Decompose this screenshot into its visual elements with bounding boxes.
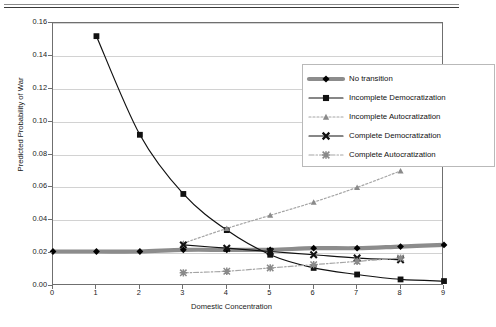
legend-item[interactable]: Incomplete Democratization bbox=[303, 88, 496, 108]
legend-item-label: Incomplete Autocratization bbox=[349, 113, 440, 121]
series-5 bbox=[180, 254, 405, 276]
y-tick-mark bbox=[48, 219, 52, 220]
y-tick-mark bbox=[48, 252, 52, 253]
series-3 bbox=[180, 168, 403, 246]
legend-marker-icon bbox=[303, 89, 349, 107]
x-tick-label: 8 bbox=[390, 289, 410, 296]
x-tick-mark bbox=[400, 285, 401, 289]
x-tick-mark bbox=[356, 285, 357, 289]
legend-item[interactable]: No transition bbox=[303, 69, 496, 89]
legend-marker-icon bbox=[303, 70, 349, 88]
y-tick-mark bbox=[48, 22, 52, 23]
x-tick-label: 2 bbox=[129, 289, 149, 296]
x-tick-label: 7 bbox=[346, 289, 366, 296]
y-tick-mark bbox=[48, 55, 52, 56]
y-tick-mark bbox=[48, 154, 52, 155]
legend-item-label: No transition bbox=[349, 75, 393, 83]
y-tick-label: 0.04 bbox=[1, 215, 47, 222]
y-tick-label: 0.06 bbox=[1, 182, 47, 189]
x-tick-label: 1 bbox=[85, 289, 105, 296]
x-tick-mark bbox=[139, 285, 140, 289]
y-tick-label: 0.16 bbox=[1, 18, 47, 25]
x-tick-mark bbox=[226, 285, 227, 289]
y-tick-label: 0.02 bbox=[1, 248, 47, 255]
x-tick-label: 9 bbox=[433, 289, 453, 296]
x-tick-label: 4 bbox=[216, 289, 236, 296]
x-tick-label: 0 bbox=[42, 289, 62, 296]
legend-item-label: Complete Autocratization bbox=[349, 151, 436, 159]
legend-marker-icon bbox=[303, 108, 349, 126]
x-tick-mark bbox=[95, 285, 96, 289]
x-tick-label: 3 bbox=[172, 289, 192, 296]
x-tick-mark bbox=[182, 285, 183, 289]
legend-item[interactable]: Incomplete Autocratization bbox=[303, 107, 496, 127]
x-tick-mark bbox=[269, 285, 270, 289]
chart-legend: No transitionIncomplete DemocratizationI… bbox=[302, 64, 495, 167]
y-tick-label: 0.12 bbox=[1, 84, 47, 91]
y-tick-mark bbox=[48, 186, 52, 187]
y-tick-label: 0.10 bbox=[1, 117, 47, 124]
legend-marker-icon bbox=[303, 146, 349, 164]
legend-item-label: Complete Democratization bbox=[349, 132, 441, 140]
y-tick-mark bbox=[48, 88, 52, 89]
legend-marker-icon bbox=[303, 127, 349, 145]
plot-area: No transitionIncomplete DemocratizationI… bbox=[52, 22, 443, 285]
y-tick-label: 0.14 bbox=[1, 51, 47, 58]
legend-item-label: Incomplete Democratization bbox=[349, 94, 446, 102]
page-rule-thin bbox=[4, 4, 459, 5]
series-4 bbox=[180, 242, 404, 263]
x-tick-label: 6 bbox=[303, 289, 323, 296]
y-tick-label: 0.00 bbox=[1, 281, 47, 288]
y-tick-label: 0.08 bbox=[1, 150, 47, 157]
x-tick-mark bbox=[313, 285, 314, 289]
y-axis-title: Predicted Probability of War bbox=[16, 55, 25, 195]
x-tick-mark bbox=[443, 285, 444, 289]
x-tick-label: 5 bbox=[259, 289, 279, 296]
x-tick-mark bbox=[52, 285, 53, 289]
legend-item[interactable]: Complete Democratization bbox=[303, 126, 496, 146]
x-axis-title: Domestic Concentration bbox=[0, 302, 463, 311]
legend-item[interactable]: Complete Autocratization bbox=[303, 145, 496, 165]
y-tick-mark bbox=[48, 121, 52, 122]
page-rule bbox=[4, 7, 459, 8]
